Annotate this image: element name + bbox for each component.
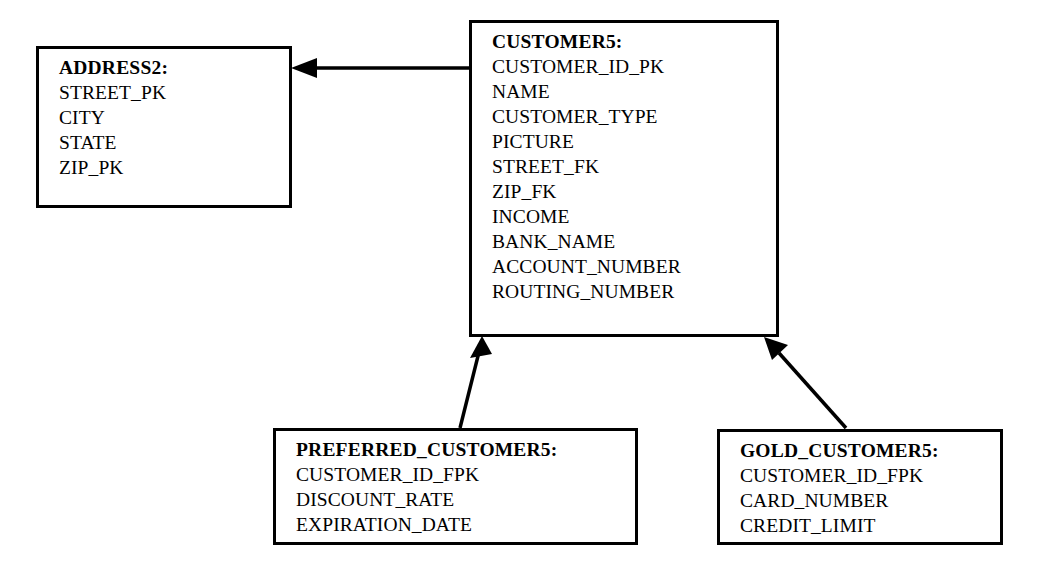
attribute-item: EXPIRATION_DATE xyxy=(296,512,635,537)
entity-title-address2: ADDRESS2: xyxy=(59,55,289,80)
relationship-line-gold-customer5 xyxy=(779,353,846,428)
er-diagram-canvas: ADDRESS2: STREET_PK CITY STATE ZIP_PK CU… xyxy=(0,0,1047,576)
entity-title-customer5: CUSTOMER5: xyxy=(492,29,776,54)
attribute-item: CREDIT_LIMIT xyxy=(740,513,1000,538)
entity-title-preferred-customer5: PREFERRED_CUSTOMER5: xyxy=(296,437,635,462)
attribute-item: NAME xyxy=(492,79,776,104)
attribute-item: STREET_FK xyxy=(492,154,776,179)
attribute-item: ZIP_FK xyxy=(492,179,776,204)
relationship-gold-customer5-to-customer5 xyxy=(764,337,846,428)
entity-content-gold-customer5: GOLD_CUSTOMER5: CUSTOMER_ID_FPK CARD_NUM… xyxy=(720,432,1000,538)
attribute-item: ACCOUNT_NUMBER xyxy=(492,254,776,279)
arrowhead-address2 xyxy=(291,58,317,78)
entity-content-preferred-customer5: PREFERRED_CUSTOMER5: CUSTOMER_ID_FPK DIS… xyxy=(276,431,635,537)
attribute-item: INCOME xyxy=(492,204,776,229)
attribute-item: ROUTING_NUMBER xyxy=(492,279,776,304)
attribute-item: STATE xyxy=(59,130,289,155)
relationship-preferred-customer5-to-customer5 xyxy=(460,336,492,428)
attribute-list-gold-customer5: CUSTOMER_ID_FPK CARD_NUMBER CREDIT_LIMIT xyxy=(740,463,1000,538)
entity-box-gold-customer5[interactable]: GOLD_CUSTOMER5: CUSTOMER_ID_FPK CARD_NUM… xyxy=(717,429,1003,545)
attribute-item: CITY xyxy=(59,105,289,130)
attribute-item: DISCOUNT_RATE xyxy=(296,487,635,512)
attribute-item: CUSTOMER_ID_PK xyxy=(492,54,776,79)
arrowhead-customer5-from-gold xyxy=(764,337,788,360)
attribute-item: STREET_PK xyxy=(59,80,289,105)
entity-box-customer5[interactable]: CUSTOMER5: CUSTOMER_ID_PK NAME CUSTOMER_… xyxy=(469,20,779,337)
relationship-customer5-to-address2 xyxy=(291,58,469,78)
entity-content-customer5: CUSTOMER5: CUSTOMER_ID_PK NAME CUSTOMER_… xyxy=(472,23,776,304)
attribute-item: CUSTOMER_TYPE xyxy=(492,104,776,129)
attribute-list-preferred-customer5: CUSTOMER_ID_FPK DISCOUNT_RATE EXPIRATION… xyxy=(296,462,635,537)
attribute-list-address2: STREET_PK CITY STATE ZIP_PK xyxy=(59,80,289,180)
entity-content-address2: ADDRESS2: STREET_PK CITY STATE ZIP_PK xyxy=(39,49,289,180)
entity-title-gold-customer5: GOLD_CUSTOMER5: xyxy=(740,438,1000,463)
attribute-list-customer5: CUSTOMER_ID_PK NAME CUSTOMER_TYPE PICTUR… xyxy=(492,54,776,304)
attribute-item: BANK_NAME xyxy=(492,229,776,254)
entity-box-address2[interactable]: ADDRESS2: STREET_PK CITY STATE ZIP_PK xyxy=(36,46,292,208)
arrowhead-customer5-from-preferred xyxy=(470,336,492,358)
entity-box-preferred-customer5[interactable]: PREFERRED_CUSTOMER5: CUSTOMER_ID_FPK DIS… xyxy=(273,428,638,545)
attribute-item: CUSTOMER_ID_FPK xyxy=(740,463,1000,488)
attribute-item: CARD_NUMBER xyxy=(740,488,1000,513)
attribute-item: PICTURE xyxy=(492,129,776,154)
relationship-line-preferred-customer5 xyxy=(460,352,479,428)
attribute-item: ZIP_PK xyxy=(59,155,289,180)
attribute-item: CUSTOMER_ID_FPK xyxy=(296,462,635,487)
